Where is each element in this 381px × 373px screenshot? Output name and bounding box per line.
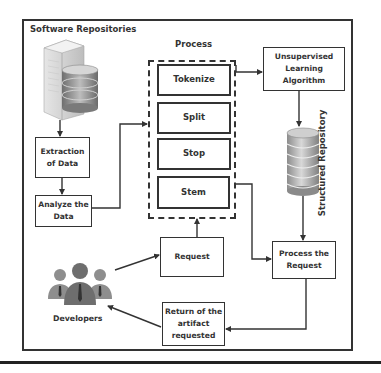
server-database-icon (36, 36, 106, 122)
return-of-artifact-box: Return of the artifact requested (162, 302, 225, 346)
tokenize-box: Tokenize (157, 64, 231, 96)
analyze-the-data-box: Analyze the Data (35, 195, 92, 227)
stop-box: Stop (157, 138, 231, 170)
extraction-of-data-box: Extraction of Data (35, 137, 90, 178)
split-box: Split (157, 102, 231, 134)
unsupervised-learning-algorithm-box: Unsupervised Learning Algorithm (263, 47, 345, 91)
people-group-icon (44, 259, 116, 311)
request-box: Request (160, 237, 224, 277)
developers-label: Developers (53, 314, 103, 323)
structured-repository-label: Structured Repository (317, 103, 327, 223)
process-the-request-box: Process the Request (272, 241, 336, 279)
stem-box: Stem (157, 176, 230, 209)
